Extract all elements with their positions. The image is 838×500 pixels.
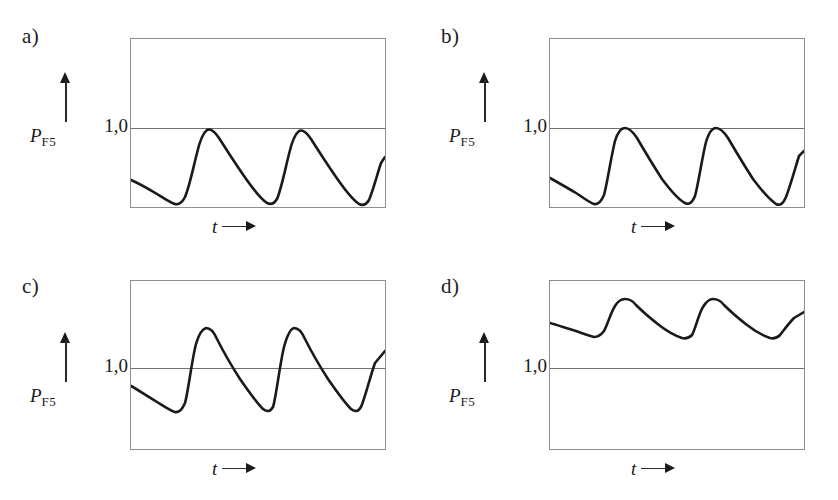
panel-d-y-axis-arrow <box>474 332 496 382</box>
panel-c-y-axis-label: PF5 <box>30 386 56 408</box>
panel-c-y-axis-arrow <box>55 332 77 382</box>
axis-shaft <box>641 468 667 470</box>
axis-shaft <box>222 468 248 470</box>
panel-c: c) PF5 1,0 t <box>0 250 419 500</box>
axis-shaft <box>65 340 67 382</box>
panel-a-y-axis-arrow <box>55 72 77 122</box>
panel-c-tick-label-1-0: 1,0 <box>92 356 128 375</box>
arrow-head <box>665 463 675 473</box>
panel-d-plot-frame <box>549 280 805 450</box>
panel-b-y-axis-label: PF5 <box>449 126 475 148</box>
right-arrow-icon <box>641 221 675 231</box>
panel-b-trace <box>550 128 804 205</box>
axis-shaft <box>222 226 248 228</box>
panel-d-x-axis-label: t <box>631 458 675 478</box>
panel-c-label: c) <box>22 276 39 297</box>
panel-a-plot-frame <box>130 38 386 208</box>
panel-a: a) PF5 1,0 t <box>0 0 419 250</box>
panel-d-trace <box>550 299 804 338</box>
panel-d: d) PF5 1,0 t <box>419 250 838 500</box>
arrow-head <box>246 221 256 231</box>
axis-shaft <box>484 340 486 382</box>
panel-b: b) PF5 1,0 t <box>419 0 838 250</box>
panel-a-y-axis-label: PF5 <box>30 126 56 148</box>
panel-d-y-axis-label: PF5 <box>449 386 475 408</box>
panel-b-x-axis-label: t <box>631 216 675 236</box>
right-arrow-icon <box>222 463 256 473</box>
panel-b-label: b) <box>441 26 460 47</box>
panel-b-plot-frame <box>549 38 805 208</box>
panel-c-trace <box>131 328 385 412</box>
panel-a-tick-label-1-0: 1,0 <box>92 116 128 135</box>
panel-d-tick-label-1-0: 1,0 <box>511 356 547 375</box>
panel-c-svg <box>131 281 385 449</box>
panel-a-label: a) <box>22 26 39 47</box>
panel-a-trace <box>131 129 385 204</box>
axis-shaft <box>484 80 486 122</box>
axis-shaft <box>641 226 667 228</box>
panel-b-y-axis-arrow <box>474 72 496 122</box>
panel-a-svg <box>131 39 385 207</box>
figure-four-panel-oscillation-plots: a) PF5 1,0 t b) <box>0 0 838 500</box>
panel-c-x-axis-label: t <box>212 458 256 478</box>
right-arrow-icon <box>641 463 675 473</box>
arrow-head <box>246 463 256 473</box>
axis-shaft <box>65 80 67 122</box>
arrow-head <box>665 221 675 231</box>
panel-d-svg <box>550 281 804 449</box>
panel-b-tick-label-1-0: 1,0 <box>511 116 547 135</box>
panel-c-plot-frame <box>130 280 386 450</box>
panel-d-label: d) <box>441 276 460 297</box>
panel-b-svg <box>550 39 804 207</box>
panel-a-x-axis-label: t <box>212 216 256 236</box>
right-arrow-icon <box>222 221 256 231</box>
